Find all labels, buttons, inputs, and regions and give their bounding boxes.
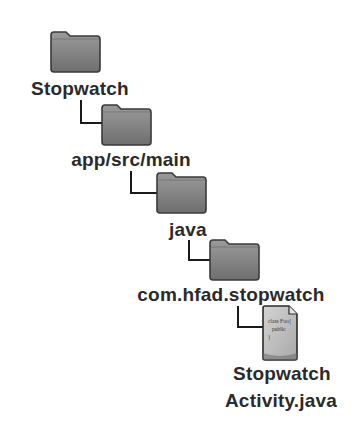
- svg-text:public: public: [272, 326, 286, 332]
- tree-connector: [130, 171, 157, 194]
- folder-label-com-hfad-stopwatch: com.hfad.stopwatch: [134, 285, 328, 305]
- file-label-line2: Activity.java: [218, 391, 344, 411]
- folder-label-app-src-main: app/src/main: [64, 150, 198, 170]
- svg-text:class Foo{: class Foo{: [268, 318, 292, 325]
- folder-icon[interactable]: [155, 172, 207, 214]
- folder-icon[interactable]: [49, 31, 101, 73]
- folder-icon[interactable]: [100, 104, 152, 146]
- tree-connector: [188, 240, 210, 261]
- file-label-line1: Stopwatch: [222, 364, 342, 384]
- tree-connector: [237, 306, 264, 328]
- folder-label-java: java: [166, 220, 210, 240]
- svg-text:}: }: [268, 334, 271, 341]
- folder-label-stopwatch: Stopwatch: [26, 79, 134, 99]
- java-file-icon[interactable]: class Foo{ public }: [262, 305, 298, 361]
- folder-icon[interactable]: [208, 239, 260, 281]
- tree-connector: [80, 100, 102, 124]
